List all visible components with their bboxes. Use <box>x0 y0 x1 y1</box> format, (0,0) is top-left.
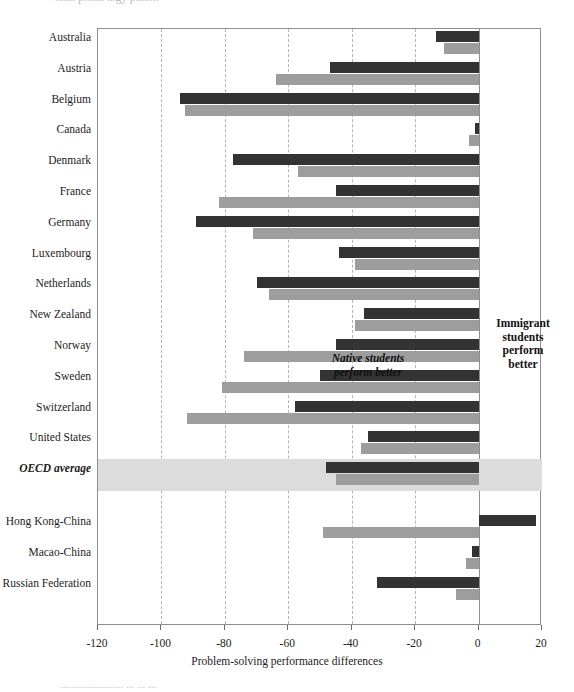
annotation-immigrant-line-2: students <box>479 331 567 345</box>
x-tick-label--20: -20 <box>384 637 444 649</box>
annotation-immigrant-line-4: better <box>479 358 567 372</box>
category-label-sweden: Sweden <box>0 370 91 382</box>
bar-oecd-average-series1 <box>326 462 478 473</box>
clipped-header-text: ....... p....... ...gy p........ <box>0 0 574 8</box>
x-tick-label--100: -100 <box>130 637 190 649</box>
gridline--60 <box>288 29 289 624</box>
gridline--80 <box>225 29 226 624</box>
bar-russian-federation-series1 <box>377 577 478 588</box>
bar-belgium-series2 <box>185 105 478 116</box>
bar-canada-series2 <box>469 135 479 146</box>
annotation-native-students: Native students perform better <box>294 352 442 379</box>
bar-germany-series2 <box>253 228 478 239</box>
gridline--100 <box>161 29 162 624</box>
x-tick-mark--20 <box>414 625 415 630</box>
clipped-caption-label: ....................... ... ... ... <box>60 684 156 690</box>
bar-belgium-series1 <box>180 93 478 104</box>
bar-hong-kong-china-series2 <box>323 527 478 538</box>
clipped-header-label: ....... p....... ...gy p........ <box>55 0 159 3</box>
bar-sweden-series2 <box>222 382 479 393</box>
annotation-immigrant-students: Immigrant students perform better <box>479 317 567 371</box>
category-label-hong-kong-china: Hong Kong-China <box>0 515 91 527</box>
x-tick-label--40: -40 <box>321 637 381 649</box>
category-label-austria: Austria <box>0 62 91 74</box>
x-tick-label--80: -80 <box>194 637 254 649</box>
annotation-native-line-1: Native students <box>294 352 442 366</box>
category-label-australia: Australia <box>0 31 91 43</box>
bar-luxembourg-series2 <box>355 259 479 270</box>
x-tick-label--60: -60 <box>257 637 317 649</box>
x-tick-mark-0 <box>478 625 479 630</box>
bar-switzerland-series2 <box>187 413 479 424</box>
category-label-germany: Germany <box>0 216 91 228</box>
bar-denmark-series1 <box>233 154 479 165</box>
category-label-denmark: Denmark <box>0 154 91 166</box>
x-tick-label--120: -120 <box>67 637 127 649</box>
bar-france-series2 <box>219 197 479 208</box>
x-axis-title: Problem-solving performance differences <box>0 655 574 667</box>
category-label-united-states: United States <box>0 431 91 443</box>
x-tick-mark--100 <box>160 625 161 630</box>
bar-denmark-series2 <box>298 166 479 177</box>
bar-switzerland-series1 <box>295 401 479 412</box>
category-label-norway: Norway <box>0 339 91 351</box>
plot-area: Native students perform better <box>97 28 541 625</box>
bar-new-zealand-series2 <box>355 320 479 331</box>
bar-austria-series2 <box>276 74 479 85</box>
annotation-immigrant-line-1: Immigrant <box>479 317 567 331</box>
bar-macao-china-series2 <box>466 558 479 569</box>
category-label-new-zealand: New Zealand <box>0 308 91 320</box>
category-label-russian-federation: Russian Federation <box>0 577 91 589</box>
category-label-macao-china: Macao-China <box>0 546 91 558</box>
category-label-luxembourg: Luxembourg <box>0 247 91 259</box>
x-tick-label-0: 0 <box>448 637 508 649</box>
x-tick-mark--120 <box>97 625 98 630</box>
bar-france-series1 <box>336 185 479 196</box>
x-tick-label-20: 20 <box>511 637 571 649</box>
bar-australia-series2 <box>444 43 479 54</box>
bar-netherlands-series2 <box>269 289 478 300</box>
clipped-caption-text: ....................... ... ... ... <box>0 684 574 692</box>
bar-norway-series1 <box>336 339 479 350</box>
problem-solving-performance-figure: ....... p....... ...gy p........ Austral… <box>0 0 574 692</box>
bar-oecd-average-series2 <box>336 474 479 485</box>
bar-macao-china-series1 <box>472 546 478 557</box>
category-label-canada: Canada <box>0 123 91 135</box>
annotation-immigrant-line-3: perform <box>479 344 567 358</box>
bar-australia-series1 <box>436 31 479 42</box>
category-label-switzerland: Switzerland <box>0 401 91 413</box>
x-tick-mark-20 <box>541 625 542 630</box>
x-tick-mark--80 <box>224 625 225 630</box>
bar-united-states-series2 <box>361 443 478 454</box>
bar-new-zealand-series1 <box>364 308 478 319</box>
category-label-netherlands: Netherlands <box>0 277 91 289</box>
x-tick-mark--40 <box>351 625 352 630</box>
bar-austria-series1 <box>330 62 479 73</box>
annotation-native-line-2: perform better <box>294 366 442 380</box>
bar-germany-series1 <box>196 216 478 227</box>
bar-hong-kong-china-series1 <box>479 515 536 526</box>
bar-united-states-series1 <box>368 431 479 442</box>
category-label-france: France <box>0 185 91 197</box>
bar-luxembourg-series1 <box>339 247 479 258</box>
bar-canada-series1 <box>475 123 478 134</box>
category-label-oecd-average: OECD average <box>0 462 91 474</box>
x-tick-mark--60 <box>287 625 288 630</box>
bar-netherlands-series1 <box>257 277 479 288</box>
bar-russian-federation-series2 <box>456 589 478 600</box>
category-label-belgium: Belgium <box>0 93 91 105</box>
